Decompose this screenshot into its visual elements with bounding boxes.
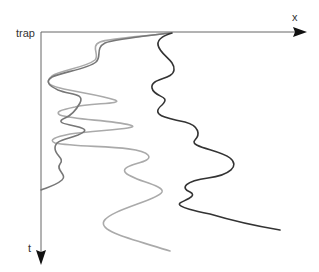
- trajectory-light: [48, 33, 170, 251]
- t-axis-arrowhead-icon: [36, 250, 46, 265]
- x-axis-arrowhead-icon: [293, 27, 307, 37]
- trajectory-diagram: [0, 0, 319, 272]
- trajectory-dark: [152, 33, 280, 230]
